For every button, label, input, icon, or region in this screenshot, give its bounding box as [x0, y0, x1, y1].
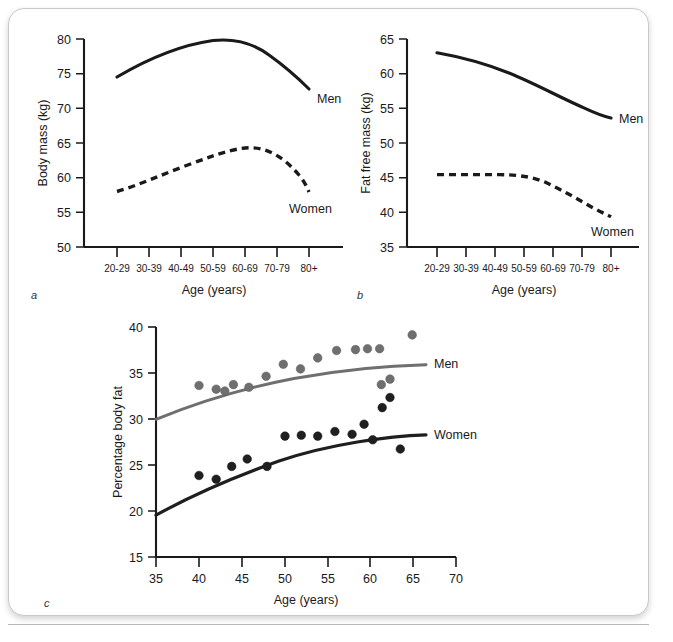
panel-c-xtick-50: 50: [278, 572, 292, 586]
panel-b-ytick-40: 40: [380, 206, 394, 220]
panel-b-y-ticks: 65 60 55 50 45 40 35: [380, 33, 407, 255]
panel-a-chart: 80 75 70 65 60 55 50 20-2: [21, 17, 351, 317]
panel-b-women-label: Women: [591, 225, 634, 239]
panel-c-percentage-body-fat: 40 35 30 25 20 15 35 40: [104, 309, 649, 609]
figure-frame: 80 75 70 65 60 55 50 20-2: [8, 8, 649, 616]
panel-c-letter: c: [44, 597, 50, 609]
panel-a-xtick-70-79: 70-79: [264, 263, 290, 274]
panel-b-ytick-55: 55: [380, 102, 394, 116]
panel-c-xtick-60: 60: [363, 572, 377, 586]
panel-b-ytick-50: 50: [380, 137, 394, 151]
panel-b-ytick-35: 35: [380, 241, 394, 255]
panel-c-men-fit-curve: [156, 365, 426, 420]
panel-b-letter: b: [357, 289, 363, 301]
panel-c-men-points: [195, 331, 417, 396]
caption-divider: [8, 624, 649, 625]
panel-b-xtick-30-39: 30-39: [453, 263, 479, 274]
panel-b-chart: 65 60 55 50 45 40 35 20-29: [349, 17, 649, 317]
panel-b-xtick-60-69: 60-69: [540, 263, 566, 274]
panel-b-women-curve: [437, 175, 611, 217]
panel-c-ytick-40: 40: [129, 321, 143, 335]
panel-b-ytick-45: 45: [380, 171, 394, 185]
panel-b-x-axis-title: Age (years): [492, 283, 557, 297]
panel-a-ytick-80: 80: [57, 33, 71, 47]
panel-c-x-axis-title: Age (years): [274, 593, 339, 607]
panel-b-ytick-60: 60: [380, 67, 394, 81]
panel-a-xtick-60-69: 60-69: [232, 263, 258, 274]
panel-c-men-label: Men: [434, 357, 458, 371]
panel-b-y-axis-title: Fat free mass (kg): [359, 92, 373, 193]
panel-a-ytick-55: 55: [57, 206, 71, 220]
panel-b-x-ticks: 20-29 30-39 40-49 50-59 60-69 70-79 80+: [424, 247, 619, 274]
panel-a-ytick-50: 50: [57, 241, 71, 255]
panel-c-xtick-65: 65: [406, 572, 420, 586]
panel-c-ytick-20: 20: [129, 505, 143, 519]
panel-a-men-label: Men: [317, 92, 341, 106]
panel-a-men-curve: [117, 40, 309, 89]
panel-b-xtick-40-49: 40-49: [482, 263, 508, 274]
panel-c-xtick-40: 40: [192, 572, 206, 586]
panel-a-ytick-75: 75: [57, 67, 71, 81]
panel-a-x-ticks: 20-29 30-39 40-49 50-59 60-69 70-79 80+: [104, 247, 317, 274]
panel-a-women-curve: [117, 148, 309, 192]
panel-b-fat-free-mass: 65 60 55 50 45 40 35 20-29: [349, 17, 649, 317]
panel-a-y-axis-title: Body mass (kg): [36, 100, 50, 187]
panel-b-xtick-80plus: 80+: [603, 263, 620, 274]
panel-a-xtick-20-29: 20-29: [104, 263, 130, 274]
panel-b-men-label: Men: [619, 112, 643, 126]
panel-a-xtick-50-59: 50-59: [200, 263, 226, 274]
panel-a-xtick-40-49: 40-49: [168, 263, 194, 274]
panel-c-y-axis-title: Percentage body fat: [111, 386, 125, 498]
panel-a-ytick-70: 70: [57, 102, 71, 116]
panel-a-xtick-80plus: 80+: [301, 263, 318, 274]
panel-a-y-ticks: 80 75 70 65 60 55 50: [57, 33, 84, 255]
panel-b-xtick-70-79: 70-79: [569, 263, 595, 274]
panel-a-ytick-65: 65: [57, 137, 71, 151]
panel-c-xtick-35: 35: [149, 572, 163, 586]
panel-c-xtick-45: 45: [235, 572, 249, 586]
panel-c-ytick-25: 25: [129, 459, 143, 473]
panel-c-women-label: Women: [434, 428, 477, 442]
panel-c-y-ticks: 40 35 30 25 20 15: [129, 321, 156, 565]
panel-c-ytick-30: 30: [129, 413, 143, 427]
panel-c-xtick-55: 55: [321, 572, 335, 586]
panel-a-body-mass: 80 75 70 65 60 55 50 20-2: [21, 17, 351, 317]
panel-a-ytick-60: 60: [57, 171, 71, 185]
panel-b-men-curve: [437, 53, 611, 118]
panel-c-x-ticks: 35 40 45 50 55 60 65 70: [149, 557, 463, 586]
panel-a-xtick-30-39: 30-39: [136, 263, 162, 274]
panel-c-women-points: [195, 393, 405, 483]
panel-a-x-axis-title: Age (years): [182, 283, 247, 297]
panel-c-ytick-15: 15: [129, 551, 143, 565]
panel-b-ytick-65: 65: [380, 33, 394, 47]
panel-b-xtick-50-59: 50-59: [511, 263, 537, 274]
panel-c-ytick-35: 35: [129, 367, 143, 381]
panel-a-letter: a: [31, 289, 37, 301]
panel-b-xtick-20-29: 20-29: [424, 263, 450, 274]
panel-a-women-label: Women: [289, 202, 332, 216]
panel-c-xtick-70: 70: [449, 572, 463, 586]
panel-c-chart: 40 35 30 25 20 15 35 40: [104, 309, 649, 609]
